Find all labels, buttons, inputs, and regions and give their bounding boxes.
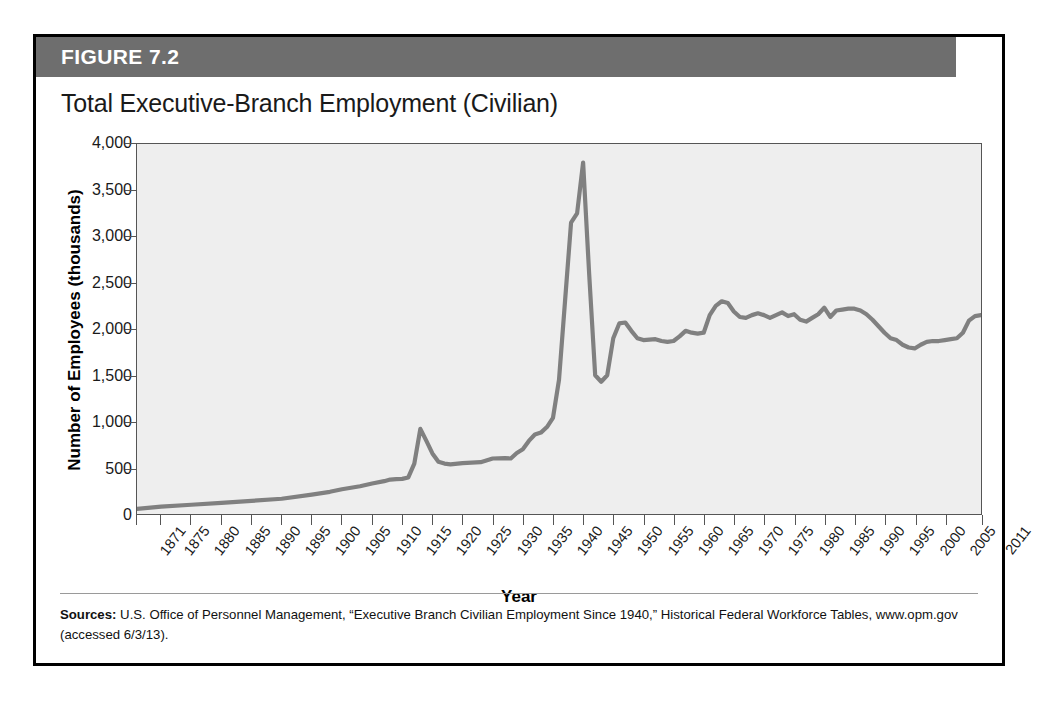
x-axis-tick-mark <box>644 515 645 525</box>
x-axis-tick-label: 1960 <box>694 523 726 558</box>
x-axis-tick-label: 1880 <box>211 523 243 558</box>
x-axis-tick-mark <box>523 515 524 525</box>
y-axis-tick-label: 1,000 <box>56 413 132 431</box>
x-axis-tick-mark <box>281 515 282 525</box>
y-axis-tick-label: 1,500 <box>56 367 132 385</box>
x-axis-tick-mark <box>341 515 342 525</box>
source-label: Sources: <box>60 607 116 622</box>
x-axis-tick-label: 1920 <box>452 523 484 558</box>
x-axis-tick-mark <box>372 515 373 525</box>
x-axis-tick-mark <box>885 515 886 525</box>
x-axis-tick-mark <box>221 515 222 525</box>
y-axis-tick-labels: 05001,0001,5002,0002,5003,0003,5004,000 <box>56 135 132 515</box>
y-axis-tick-mark <box>125 190 136 191</box>
x-axis-tick-label: 1990 <box>875 523 907 558</box>
x-axis-tick-label: 1895 <box>301 523 333 558</box>
x-axis-tick-label: 1900 <box>332 523 364 558</box>
y-axis-tick-mark <box>125 236 136 237</box>
x-axis-tick-mark <box>982 515 983 525</box>
x-axis-tick-label: 2005 <box>966 523 998 558</box>
x-axis-tick-mark <box>613 515 614 525</box>
y-axis-tick-mark <box>125 283 136 284</box>
x-axis-title: Year <box>36 587 1002 607</box>
y-axis-tick-label: 2,000 <box>56 320 132 338</box>
x-axis-tick-label: 1965 <box>724 523 756 558</box>
x-axis-tick-mark <box>311 515 312 525</box>
data-series-line <box>137 163 981 509</box>
x-axis-tick-mark <box>734 515 735 525</box>
y-axis-tick-label: 4,000 <box>56 134 132 152</box>
chart-title: Total Executive-Branch Employment (Civil… <box>61 89 558 118</box>
x-axis-tick-label: 1871 <box>156 523 188 558</box>
y-axis-tick-label: 0 <box>56 506 132 524</box>
x-axis-tick-label: 1890 <box>271 523 303 558</box>
x-axis-tick-mark <box>795 515 796 525</box>
x-axis-tick-mark <box>160 515 161 525</box>
y-axis-tick-mark <box>125 329 136 330</box>
x-axis-tick-label: 1950 <box>634 523 666 558</box>
x-axis-tick-label: 1970 <box>755 523 787 558</box>
y-axis-tick-mark <box>125 143 136 144</box>
x-axis-tick-labels: 1871187518801885189018951900190519101915… <box>36 523 1002 583</box>
x-axis-tick-label: 1930 <box>513 523 545 558</box>
x-axis-tick-mark <box>402 515 403 525</box>
x-axis-tick-label: 1945 <box>604 523 636 558</box>
x-axis-tick-label: 1980 <box>815 523 847 558</box>
x-axis-tick-label: 1940 <box>573 523 605 558</box>
x-axis-tick-mark <box>190 515 191 525</box>
x-axis-tick-label: 1955 <box>664 523 696 558</box>
chart-area: Number of Employees (thousands) 05001,00… <box>36 135 1002 575</box>
x-axis-tick-mark <box>855 515 856 525</box>
y-axis-tick-label: 500 <box>56 460 132 478</box>
x-axis-tick-label: 1985 <box>845 523 877 558</box>
y-axis-tick-label: 3,000 <box>56 227 132 245</box>
x-axis-tick-label: 2011 <box>1002 523 1034 557</box>
x-axis-tick-mark <box>704 515 705 525</box>
y-axis-tick-mark <box>125 469 136 470</box>
x-axis-tick-mark <box>432 515 433 525</box>
x-axis-tick-mark <box>251 515 252 525</box>
x-axis-tick-mark <box>136 515 137 525</box>
x-axis-tick-label: 1910 <box>392 523 424 558</box>
y-axis-tick-label: 3,500 <box>56 181 132 199</box>
x-axis-tick-mark <box>583 515 584 525</box>
plot-box <box>136 143 982 515</box>
x-axis-tick-label: 1995 <box>906 523 938 558</box>
figure-header-bar: FIGURE 7.2 <box>36 37 956 77</box>
source-note: Sources: U.S. Office of Personnel Manage… <box>60 605 986 646</box>
x-axis-tick-mark <box>916 515 917 525</box>
y-axis-tick-label: 2,500 <box>56 274 132 292</box>
y-axis-tick-mark <box>125 422 136 423</box>
x-axis-tick-label: 1885 <box>241 523 273 558</box>
x-axis-tick-label: 1915 <box>422 523 454 558</box>
x-axis-tick-label: 1975 <box>785 523 817 558</box>
x-axis-tick-mark <box>946 515 947 525</box>
source-text: U.S. Office of Personnel Management, “Ex… <box>60 607 958 642</box>
x-axis-tick-label: 1935 <box>543 523 575 558</box>
figure-container: FIGURE 7.2 Total Executive-Branch Employ… <box>33 34 1005 666</box>
x-axis-tick-label: 1875 <box>181 523 213 558</box>
x-axis-tick-mark <box>493 515 494 525</box>
x-axis-tick-mark <box>825 515 826 525</box>
x-axis-tick-mark <box>764 515 765 525</box>
source-divider <box>60 593 978 594</box>
chart-line-svg <box>137 144 981 514</box>
figure-number-label: FIGURE 7.2 <box>36 45 179 69</box>
x-axis-tick-label: 2000 <box>936 523 968 558</box>
y-axis-tick-mark <box>125 376 136 377</box>
x-axis-tick-mark <box>553 515 554 525</box>
x-axis-tick-label: 1925 <box>483 523 515 558</box>
x-axis-tick-mark <box>674 515 675 525</box>
x-axis-tick-mark <box>462 515 463 525</box>
x-axis-tick-label: 1905 <box>362 523 394 558</box>
